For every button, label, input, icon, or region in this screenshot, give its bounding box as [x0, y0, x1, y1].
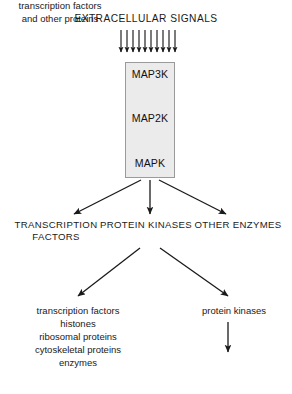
mapk-fanout-arrows: [74, 180, 226, 214]
list-item: transcription factors: [0, 0, 120, 13]
extracellular-signal-arrows: [121, 30, 175, 52]
list-item: protein kinases: [176, 305, 292, 318]
cascade-step-map2k: MAP2K: [118, 112, 182, 124]
list-item: histones: [8, 318, 148, 331]
substrate-list-right: protein kinases: [176, 305, 292, 318]
target-other-enzymes: OTHER ENZYMES: [186, 219, 290, 231]
cascade-step-mapk: MAPK: [118, 157, 182, 169]
mapk-cascade-diagram: EXTRACELLULAR SIGNALS MAP3K MAP2K MAPK T…: [0, 0, 292, 394]
cascade-step-map3k: MAP3K: [118, 68, 182, 80]
target-protein-kinases: PROTEIN KINASES: [92, 219, 200, 231]
protein-kinases-fanout-arrows: [78, 248, 228, 296]
substrate-list-left: transcription factorshistonesribosomal p…: [8, 305, 148, 370]
list-item: transcription factors: [8, 305, 148, 318]
list-item: ribosomal proteins: [8, 331, 148, 344]
list-item: cytoskeletal proteins: [8, 344, 148, 357]
list-item: enzymes: [8, 357, 148, 370]
diagram-title: EXTRACELLULAR SIGNALS: [0, 13, 292, 25]
